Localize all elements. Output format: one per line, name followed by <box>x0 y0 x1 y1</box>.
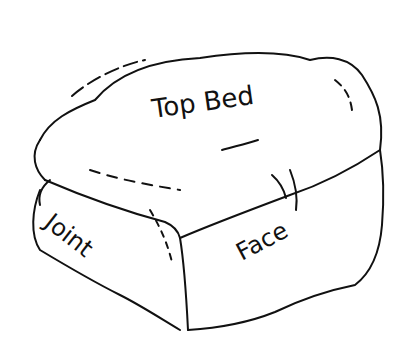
corner-edge <box>180 238 188 330</box>
stone-block-drawing <box>0 0 420 362</box>
bed-underline <box>222 140 258 150</box>
